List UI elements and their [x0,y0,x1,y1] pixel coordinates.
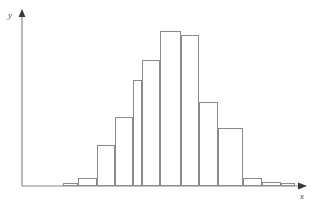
histogram-bar [161,32,181,186]
histogram-bar [244,179,262,186]
histogram-bar [282,184,295,186]
histogram-bar [200,103,218,186]
histogram-bar [263,183,281,186]
histogram-bar [116,118,133,186]
histogram-bar [64,184,78,186]
y-axis-arrow-icon [19,9,26,17]
histogram-bar [219,129,243,186]
histogram-bar [182,36,199,186]
histogram-bar [143,61,160,186]
y-axis-label: y [7,10,12,20]
histogram-bar [134,81,142,186]
histogram-figure: y x [0,0,329,208]
x-axis-label: x [299,191,304,201]
x-axis-arrow-icon [298,182,307,189]
histogram-bar [79,179,97,186]
histogram-chart: y x [0,0,329,208]
histogram-bars-group [64,32,295,186]
histogram-bar [98,146,115,186]
